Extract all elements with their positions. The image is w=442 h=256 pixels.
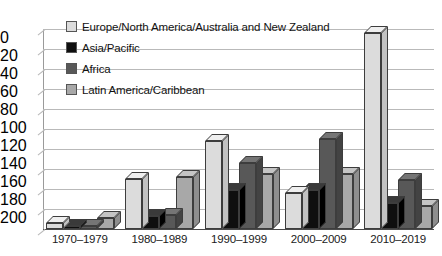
- legend-item-label: Latin America/Caribbean: [82, 84, 204, 96]
- bar-side-face: [336, 132, 343, 229]
- bar-chart: 020406080100120140160180200 1970–1979198…: [0, 0, 442, 256]
- bar-front-face: [364, 33, 381, 229]
- bar: [285, 193, 302, 229]
- legend-swatch-icon: [66, 21, 77, 32]
- bar-front-face: [125, 179, 142, 229]
- legend: Europe/North America/Australia and New Z…: [66, 18, 330, 102]
- legend-swatch-icon: [66, 63, 77, 74]
- y-tick-label: 0: [0, 29, 30, 47]
- bar-front-face: [46, 223, 63, 229]
- y-tick-label: 120: [0, 137, 30, 155]
- x-tick-label: 1970–1979: [40, 233, 120, 245]
- legend-item: Asia/Pacific: [66, 39, 330, 56]
- x-axis: 1970–19791980–19891990–19992000–20092010…: [36, 233, 434, 253]
- x-tick-label: 2010–2019: [358, 233, 438, 245]
- x-tick-label: 1990–1999: [199, 233, 279, 245]
- x-tick-label: 2000–2009: [279, 233, 359, 245]
- legend-item: Africa: [66, 60, 330, 77]
- bar-side-face: [415, 173, 422, 229]
- bar-side-face: [239, 183, 246, 229]
- bar-front-face: [205, 141, 222, 229]
- legend-swatch-icon: [66, 84, 77, 95]
- y-tick-label: 80: [0, 101, 30, 119]
- bar-side-face: [193, 170, 200, 229]
- y-tick-label: 20: [0, 47, 30, 65]
- legend-swatch-icon: [66, 42, 77, 53]
- y-tick-label: 100: [0, 119, 30, 137]
- bar-group: [364, 29, 432, 229]
- legend-item-label: Europe/North America/Australia and New Z…: [82, 21, 330, 33]
- y-tick-label: 160: [0, 173, 30, 191]
- bar-side-face: [273, 167, 280, 229]
- legend-item: Europe/North America/Australia and New Z…: [66, 18, 330, 35]
- y-tick-label: 60: [0, 83, 30, 101]
- bar-front-face: [285, 193, 302, 229]
- bar: [364, 33, 381, 229]
- legend-item-label: Africa: [82, 63, 111, 75]
- y-tick-label: 40: [0, 65, 30, 83]
- y-axis: 020406080100120140160180200: [0, 29, 30, 229]
- y-tick-label: 180: [0, 191, 30, 209]
- legend-item: Latin America/Caribbean: [66, 81, 330, 98]
- bar-side-face: [319, 183, 326, 229]
- bar: [205, 141, 222, 229]
- legend-item-label: Asia/Pacific: [82, 42, 140, 54]
- bar: [125, 179, 142, 229]
- y-tick-label: 200: [0, 209, 30, 227]
- bar: [46, 223, 63, 229]
- bar-side-face: [353, 167, 360, 229]
- bar-side-face: [302, 186, 309, 229]
- bar-side-face: [222, 134, 229, 229]
- y-tick-label: 140: [0, 155, 30, 173]
- bar-side-face: [256, 156, 263, 229]
- bar-side-face: [142, 172, 149, 229]
- bar-side-face: [381, 26, 388, 229]
- x-tick-label: 1980–1989: [119, 233, 199, 245]
